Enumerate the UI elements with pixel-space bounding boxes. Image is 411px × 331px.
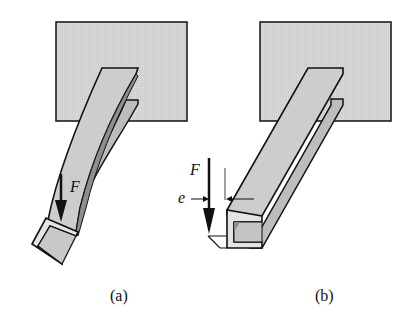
panel-a: F (a) (32, 22, 187, 305)
force-label-b: F (189, 161, 200, 178)
force-arrow-head-b (203, 208, 215, 234)
offset-arrowhead-right-b (226, 196, 232, 202)
load-bracket-b (208, 236, 227, 248)
force-label-a: F (69, 178, 80, 195)
offset-label-b: e (178, 189, 185, 206)
figure: F (a) F e (b) (0, 0, 411, 331)
caption-a: (a) (110, 287, 128, 305)
diagram-canvas: F (a) F e (b) (0, 0, 411, 331)
panel-b: F e (b) (178, 22, 391, 305)
caption-b: (b) (315, 287, 334, 305)
